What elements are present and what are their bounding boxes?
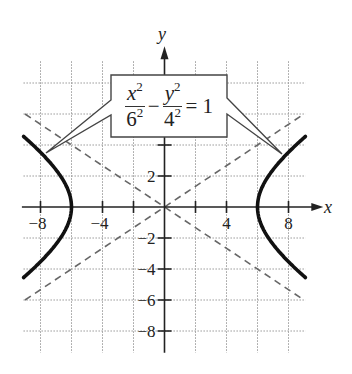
eq-minus: − (148, 94, 160, 119)
y-tick-label: −6 (137, 291, 155, 310)
eq-den1: 6 (126, 107, 137, 131)
x-tick-label: 8 (284, 214, 293, 233)
x-axis-arrow-icon (311, 203, 323, 211)
y-tick-label: −4 (137, 260, 156, 279)
x-tick-label: −4 (90, 214, 109, 233)
eq-num1: x (127, 81, 136, 105)
eq-exp2: 2 (174, 79, 181, 94)
eq-den2: 4 (164, 107, 175, 131)
eq-dexp1: 2 (137, 105, 144, 120)
y-tick-label: −8 (137, 322, 155, 341)
y-tick-label: −2 (137, 229, 155, 248)
y-axis-arrow-icon (161, 46, 169, 59)
x-tick-label: −8 (28, 214, 46, 233)
fraction-y: y2 42 (163, 83, 183, 130)
y-axis-label: y (156, 24, 166, 44)
hyperbola-plot: −8−4482−2−4−6−8 x y (0, 0, 352, 374)
eq-num2: y (165, 81, 174, 105)
y-tick-label: 2 (147, 167, 156, 186)
x-axis-label: x (323, 197, 332, 217)
eq-exp1: 2 (136, 79, 143, 94)
eq-dexp2: 2 (175, 105, 182, 120)
equation-label: x2 62 − y2 42 = 1 (111, 75, 227, 137)
fraction-x: x2 62 (125, 83, 145, 130)
x-tick-label: 4 (222, 214, 231, 233)
eq-rhs: = 1 (185, 94, 213, 119)
